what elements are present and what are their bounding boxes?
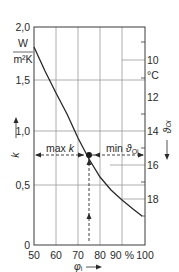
svg-text:14: 14 [147, 125, 159, 137]
svg-text:°C: °C [147, 69, 159, 81]
svg-text:50: 50 [28, 249, 40, 261]
svg-text:φi: φi [74, 260, 83, 272]
svg-text:ϑOi: ϑOi [161, 120, 173, 133]
min-theta-label: min ϑOi [106, 142, 139, 155]
svg-text:W: W [18, 37, 28, 49]
svg-text:18: 18 [147, 193, 159, 205]
svg-text:60: 60 [50, 249, 62, 261]
max-k-label: max k [46, 142, 75, 154]
grid [34, 27, 145, 245]
svg-text:100: 100 [136, 249, 154, 261]
svg-text:m²K: m²K [13, 53, 32, 65]
k-curve [34, 47, 142, 216]
svg-text:k: k [9, 152, 21, 158]
svg-text:1,5: 1,5 [15, 74, 30, 86]
svg-text:2,0: 2,0 [15, 21, 30, 33]
svg-text:16: 16 [147, 159, 159, 171]
chart: max k min ϑOi 2,0 1,5 1,0 0,5 0 W m²K k … [0, 0, 179, 272]
x-axis-labels: 50 60 70 80 90 % 100 φi [28, 249, 154, 272]
svg-text:1,0: 1,0 [15, 125, 30, 137]
operating-point [86, 152, 92, 158]
svg-text:12: 12 [147, 91, 159, 103]
svg-text:10: 10 [147, 54, 159, 66]
y2-axis-labels: 10 °C 12 14 16 18 ϑOi [147, 54, 173, 205]
svg-text:0,5: 0,5 [15, 179, 30, 191]
y-axis-labels: 2,0 1,5 1,0 0,5 0 W m²K k [9, 21, 33, 251]
svg-text:90 %: 90 % [110, 249, 134, 261]
svg-text:80: 80 [94, 249, 106, 261]
